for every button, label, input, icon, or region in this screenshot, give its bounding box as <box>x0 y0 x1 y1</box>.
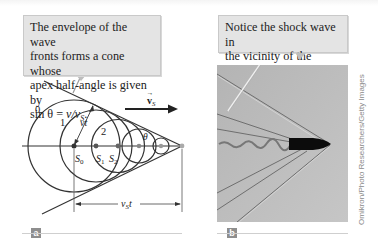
source-label-s1: S1 <box>96 153 105 166</box>
panel-b-rule <box>217 233 348 234</box>
callout-a-line4: sin θ = v/vS. <box>30 107 154 127</box>
photo-credit: Omikron/Photo Researchers/Getty Images <box>357 74 366 225</box>
shock-wave-image <box>217 65 348 222</box>
panel-a-rule <box>22 233 182 234</box>
angle-label: θ <box>143 132 148 142</box>
wavefront-label-2: 2 <box>101 126 106 137</box>
source-label-s2: S2 <box>109 153 118 166</box>
source-label-s0: S0 <box>75 153 84 166</box>
callout-a-line3: apex half-angle is given by <box>30 78 154 107</box>
distance-label: vSt <box>121 198 132 211</box>
bullet-photo <box>217 65 348 222</box>
callout-b-pointer <box>0 0 378 70</box>
